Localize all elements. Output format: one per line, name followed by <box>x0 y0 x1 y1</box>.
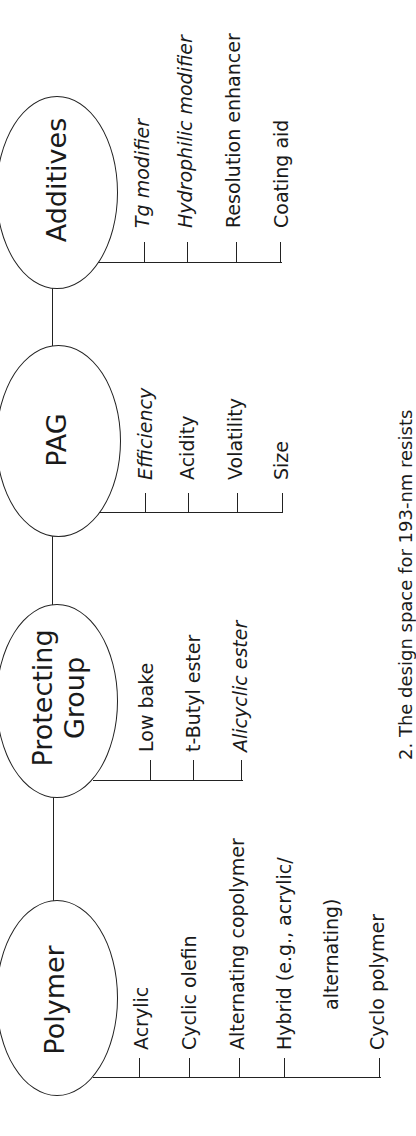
polymer-tick <box>139 1058 140 1077</box>
protecting-group-tick <box>241 760 242 780</box>
polymer-tick <box>239 1058 240 1077</box>
pag-item-size: Size <box>270 441 292 480</box>
additives-label: Additives <box>42 100 72 260</box>
additives-tick <box>144 242 145 262</box>
pag-tick <box>237 493 238 512</box>
additives-item-tg-modifier: Tg modifier <box>131 119 153 228</box>
protecting-group-item-t-butyl-ester: t-Butyl ester <box>182 635 204 752</box>
protecting-group-item-alicyclic-ester: Alicyclic ester <box>229 621 251 752</box>
additives-tick <box>280 242 281 262</box>
polymer-item-hybrid-line2: alternating) <box>320 899 342 1010</box>
polymer-item-cyclic-olefin: Cyclic olefin <box>178 935 200 1050</box>
pag-item-acidity: Acidity <box>176 416 198 480</box>
additives-bracket <box>98 262 282 263</box>
polymer-item-hybrid-line1: Hybrid (e.g., acrylic/ <box>273 857 295 1050</box>
polymer-bracket <box>93 1077 381 1078</box>
pag-item-efficiency: Efficiency <box>134 388 156 480</box>
protecting-group-label-line1: Protecting <box>28 618 58 778</box>
additives-item-coating-aid: Coating aid <box>270 120 292 228</box>
polymer-item-acrylic: Acrylic <box>130 987 152 1050</box>
polymer-label: Polymer <box>40 920 70 1080</box>
connector-pag-protecting-group <box>52 536 53 605</box>
connector-additives-pag <box>52 288 53 346</box>
connector-protecting-group-polymer <box>53 797 54 901</box>
protecting-group-label-line2: Group <box>60 618 90 778</box>
polymer-tick <box>189 1058 190 1077</box>
polymer-item-cyclo-polymer: Cyclo polymer <box>366 914 388 1050</box>
figure-caption: 2. The design space for 193-nm resists <box>396 410 416 760</box>
protecting-group-tick <box>193 760 194 780</box>
additives-item-hydrophilic-modifier: Hydrophilic modifier <box>174 35 196 228</box>
polymer-item-alternating-copolymer: Alternating copolymer <box>226 838 248 1050</box>
polymer-tick <box>379 1058 380 1077</box>
additives-item-resolution-enhancer: Resolution enhancer <box>222 33 244 228</box>
pag-bracket <box>99 512 283 513</box>
pag-tick <box>282 493 283 512</box>
pag-tick <box>145 493 146 512</box>
polymer-tick <box>284 1058 285 1077</box>
protecting-group-item-low-bake: Low bake <box>135 663 157 752</box>
pag-item-volatility: Volatility <box>224 398 246 480</box>
additives-tick <box>236 242 237 262</box>
protecting-group-tick <box>150 760 151 780</box>
pag-label: PAG <box>42 380 72 500</box>
additives-tick <box>187 242 188 262</box>
protecting-group-bracket <box>93 780 243 781</box>
pag-tick <box>188 493 189 512</box>
